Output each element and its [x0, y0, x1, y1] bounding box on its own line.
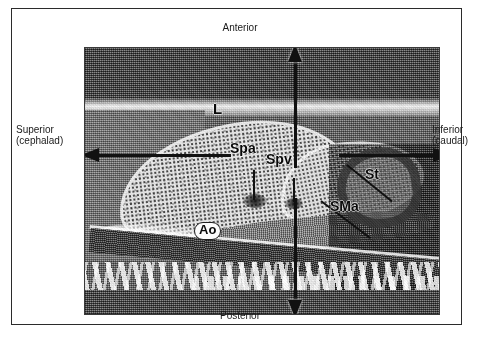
anatomy-label-stomach: St [365, 167, 379, 183]
scan-texture-fascial-line [85, 98, 439, 116]
liver-capsule-highlight [103, 216, 404, 278]
pancreatic-plane-region [204, 206, 436, 256]
figure-border [11, 8, 462, 325]
orientation-label-superior: Superior (cephalad) [16, 124, 78, 146]
aorta-anterior-wall [90, 225, 440, 261]
anatomy-label-splenic-artery: Spa [230, 141, 256, 157]
posterior-axis-line [294, 198, 297, 304]
anatomy-label-aorta: Ao [194, 222, 221, 240]
liver-region-tail [275, 131, 427, 230]
anatomy-label-liver: L [213, 101, 222, 118]
scan-texture-anterior-wall [85, 48, 439, 106]
scan-texture-left-muscle [85, 110, 205, 260]
superior-axis-line [99, 154, 231, 157]
scan-texture-grain [85, 48, 439, 314]
anatomy-label-splenic-vein: Spv [266, 152, 292, 168]
splenic-artery-leader-line [253, 170, 255, 200]
inferior-axis-line [339, 154, 439, 157]
orientation-label-inferior-line2: (caudal) [432, 135, 480, 146]
liver-region [114, 112, 360, 267]
orientation-label-superior-line2: (cephalad) [16, 135, 78, 146]
aorta-region [89, 228, 440, 284]
anterior-axis-line [294, 56, 297, 168]
arrow-right-icon [433, 148, 440, 162]
arrow-up-icon [288, 47, 302, 62]
posterior-scatter-band-2 [195, 276, 440, 302]
orientation-label-posterior: Posterior [0, 310, 480, 321]
figure-root: Anterior Posterior Superior (cephalad) I… [0, 0, 480, 343]
scan-texture-base [85, 48, 439, 314]
ultrasound-scan-image [84, 47, 440, 315]
orientation-label-inferior: Inferior (caudal) [432, 124, 480, 146]
splenic-vein-leader-line [293, 178, 295, 202]
orientation-label-anterior: Anterior [0, 22, 480, 33]
orientation-label-superior-line1: Superior [16, 124, 54, 135]
splenic-artery-marker [243, 194, 267, 208]
orientation-label-inferior-line1: Inferior [432, 124, 463, 135]
anatomy-label-superior-mesenteric-artery: SMa [330, 199, 359, 215]
posterior-scatter-band [85, 262, 439, 292]
arrow-left-icon [84, 148, 99, 162]
